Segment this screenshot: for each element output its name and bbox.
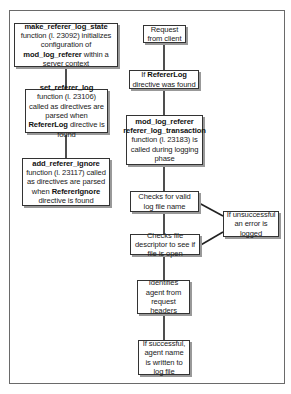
- box-text: set_referer_log function (l. 23106) call…: [28, 83, 105, 139]
- box-text: Checks for valid log file name: [133, 192, 196, 211]
- make-referer-log-state-box: make_referer_log_state function (l. 2309…: [14, 23, 118, 67]
- text-run: Request from client: [148, 25, 182, 43]
- error-logged-box: If unsuccessful an error is logged: [223, 211, 279, 237]
- text-run: function (l. 23106) called as directives…: [29, 92, 104, 120]
- box-text: If successful, agent name is written to …: [141, 339, 187, 376]
- box-text: If RefererLog directive was found: [132, 70, 196, 89]
- text-run: directive is found: [38, 196, 93, 205]
- bold-term: set_referer_log: [40, 83, 93, 92]
- text-run: directive was found: [132, 80, 195, 89]
- box-text: make_referer_log_state function (l. 2309…: [17, 22, 115, 68]
- set-referer-log-box: set_referer_log function (l. 23106) call…: [25, 89, 108, 133]
- bold-term: mod_log_referer: [23, 50, 81, 59]
- check-log-file-name-box: Checks for valid log file name: [130, 191, 199, 212]
- box-text: Checks file descriptor to see if file is…: [133, 231, 197, 259]
- bold-term: RefererLog: [28, 120, 68, 129]
- text-run: If unsuccessful an error is logged: [227, 210, 276, 238]
- box-text: Identifies agent from request headers: [140, 278, 187, 315]
- box-text: If unsuccessful an error is logged: [226, 210, 276, 238]
- text-run: function (l. 23092) initializes configur…: [21, 31, 112, 49]
- referer-log-transaction-box: mod_log_referer referer_log_transaction …: [126, 115, 203, 165]
- write-agent-box: If successful, agent name is written to …: [138, 340, 190, 375]
- text-run: Identifies agent from request headers: [146, 278, 181, 315]
- text-run: Checks file descriptor to see if file is…: [135, 231, 195, 259]
- bold-term: add_referer_ignore: [32, 159, 99, 168]
- box-text: Request from client: [146, 25, 183, 44]
- box-text: mod_log_referer referer_log_transaction …: [123, 117, 206, 163]
- box-text: add_referer_ignore function (l. 23117) c…: [25, 159, 107, 205]
- add-referer-ignore-box: add_referer_ignore function (l. 23117) c…: [22, 158, 110, 206]
- bold-term: mod_log_referer referer_log_transaction: [123, 117, 206, 135]
- bold-term: RefererLog: [147, 70, 187, 79]
- text-run: Checks for valid log file name: [138, 192, 190, 210]
- text-run: function (l. 23183) is called during log…: [131, 135, 199, 163]
- identify-agent-box: Identifies agent from request headers: [137, 280, 190, 314]
- if-refererlog-found-box: If RefererLog directive was found: [129, 70, 199, 89]
- check-file-descriptor-box: Checks file descriptor to see if file is…: [130, 234, 200, 255]
- request-from-client-box: Request from client: [143, 25, 186, 43]
- text-run: If successful, agent name is written to …: [143, 339, 186, 376]
- bold-term: RefererIgnore: [52, 187, 101, 196]
- bold-term: make_referer_log_state: [24, 22, 107, 31]
